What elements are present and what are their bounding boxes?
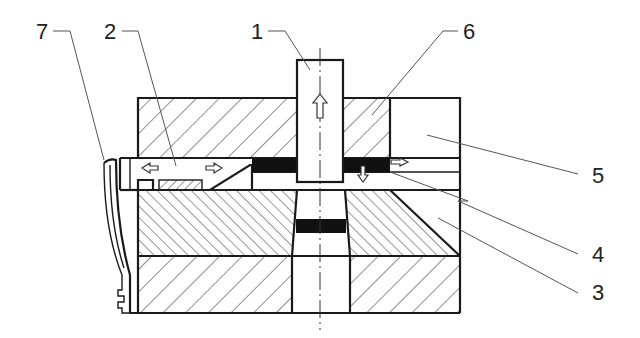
label-2: 2 bbox=[104, 19, 116, 44]
spring bbox=[104, 159, 130, 313]
label-7: 7 bbox=[36, 19, 48, 44]
arrow-left-icon bbox=[142, 163, 158, 173]
label-1: 1 bbox=[251, 19, 263, 44]
cross-section-diagram: 7 2 1 6 5 4 3 bbox=[0, 0, 640, 338]
label-4: 4 bbox=[592, 242, 604, 267]
label-3: 3 bbox=[592, 280, 604, 305]
die bbox=[138, 190, 460, 256]
arrow-right-icon bbox=[206, 163, 222, 173]
label-6: 6 bbox=[463, 19, 475, 44]
arrow-right-icon bbox=[391, 158, 408, 166]
label-5: 5 bbox=[592, 163, 604, 188]
